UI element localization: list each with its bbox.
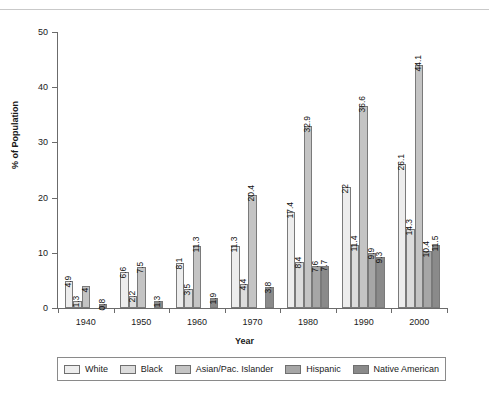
bar-value-label: 44.1 — [413, 55, 422, 72]
x-tick-label: 1950 — [111, 317, 171, 327]
header-divider — [0, 9, 489, 10]
bar-value-label: 36.6 — [358, 96, 367, 113]
x-tick-label: 1970 — [223, 317, 283, 327]
legend-swatch-icon — [64, 365, 80, 374]
bar — [248, 195, 257, 308]
bar-value-label: 0.8 — [97, 298, 106, 310]
legend-item-black[interactable]: Black — [120, 364, 163, 374]
y-tick-label: 30 — [20, 138, 48, 147]
x-tick — [58, 308, 59, 313]
bar-value-label: 17.4 — [285, 202, 294, 219]
y-axis-title: % of Population — [10, 75, 20, 195]
bar-value-label: 3.5 — [183, 283, 192, 295]
x-axis-line — [57, 308, 447, 309]
y-tick-label: 0 — [20, 304, 48, 313]
x-tick-label: 2000 — [389, 317, 449, 327]
bar-value-label: 20.4 — [247, 185, 256, 202]
x-tick — [169, 308, 170, 313]
bar — [376, 257, 385, 308]
bar-value-label: 1.9 — [208, 292, 217, 304]
legend-swatch-icon — [120, 365, 136, 374]
bar — [231, 246, 240, 308]
bar-value-label: 11.4 — [349, 236, 358, 252]
plot-area: 4.91.340.86.62.27.51.38.13.511.31.911.34… — [58, 32, 447, 308]
legend-item-white[interactable]: White — [64, 364, 108, 374]
bar-value-label: 4.9 — [63, 276, 72, 288]
bar-value-label: 8.1 — [174, 258, 183, 270]
bar-value-label: 11.5 — [430, 235, 439, 251]
legend-label: Native American — [374, 364, 440, 374]
bar-value-label: 1.3 — [153, 295, 162, 307]
legend-swatch-icon — [175, 365, 191, 374]
bar — [398, 164, 407, 308]
x-tick-label: 1980 — [278, 317, 338, 327]
x-axis-title: Year — [0, 336, 489, 346]
bar — [304, 126, 313, 308]
chart-page: % of Population 01020304050 194019501960… — [0, 0, 489, 399]
legend-label: Hispanic — [306, 364, 341, 374]
legend-item-asian-pac-islander[interactable]: Asian/Pac. Islander — [175, 364, 274, 374]
x-tick — [336, 308, 337, 313]
bar — [295, 262, 304, 308]
bar-value-label: 11.3 — [230, 236, 239, 252]
bar-value-label: 11.3 — [191, 236, 200, 252]
bar — [423, 251, 432, 308]
legend-item-native-american[interactable]: Native American — [353, 364, 440, 374]
legend-label: Asian/Pac. Islander — [196, 364, 274, 374]
x-tick-label: 1990 — [334, 317, 394, 327]
bar — [321, 266, 330, 309]
x-tick — [280, 308, 281, 313]
y-tick-label: 20 — [20, 194, 48, 203]
y-tick-label: 40 — [20, 83, 48, 92]
bar-value-label: 2.2 — [127, 291, 136, 303]
bar-value-label: 6.6 — [119, 266, 128, 278]
bar — [359, 106, 368, 308]
y-tick-label: 50 — [20, 28, 48, 37]
chart-legend: WhiteBlackAsian/Pac. IslanderHispanicNat… — [57, 357, 446, 381]
legend-swatch-icon — [353, 365, 369, 374]
bar — [432, 245, 441, 308]
bar-chart: % of Population 01020304050 194019501960… — [0, 12, 489, 352]
bar-value-label: 3.8 — [264, 282, 273, 294]
bar — [193, 246, 202, 308]
x-tick — [114, 308, 115, 313]
bar-value-label: 4 — [80, 288, 89, 293]
x-tick-label: 1940 — [56, 317, 116, 327]
bar-value-label: 22 — [341, 184, 350, 193]
bar-value-label: 7.5 — [136, 261, 145, 273]
legend-swatch-icon — [285, 365, 301, 374]
x-tick — [225, 308, 226, 313]
cut-off-header-text — [0, 0, 489, 9]
bar-value-label: 14.3 — [405, 219, 414, 236]
legend-item-hispanic[interactable]: Hispanic — [285, 364, 341, 374]
x-tick-label: 1960 — [167, 317, 227, 327]
bar-value-label: 32.9 — [302, 116, 311, 133]
x-tick — [447, 308, 448, 313]
legend-label: White — [85, 364, 108, 374]
bar-value-label: 7.7 — [319, 260, 328, 272]
bar-value-label: 9.3 — [375, 251, 384, 263]
bar-value-label: 4.4 — [238, 278, 247, 290]
bar-value-label: 26.1 — [396, 154, 405, 171]
bar — [406, 229, 415, 308]
bar-value-label: 1.3 — [72, 295, 81, 307]
legend-label: Black — [141, 364, 163, 374]
bar — [415, 65, 424, 308]
bar-value-label: 8.4 — [294, 256, 303, 268]
y-tick-label: 10 — [20, 249, 48, 258]
x-tick — [391, 308, 392, 313]
bar — [351, 245, 360, 308]
